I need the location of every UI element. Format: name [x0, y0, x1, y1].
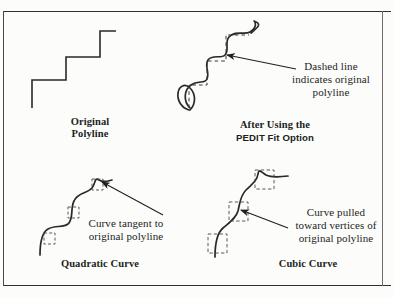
annotation-curve-pulled: Curve pulled toward vertices of original…: [281, 206, 391, 245]
caption-cubic-curve: Cubic Curve: [238, 258, 378, 270]
caption-quadratic-curve: Quadratic Curve: [20, 258, 180, 270]
cubic-vertex-grips: [208, 170, 274, 253]
pedit-original-dashed-shape: [189, 35, 249, 108]
annotation-dashed-line: Dashed line indicates original polyline: [272, 60, 390, 99]
caption-pedit-fit-line2: PEDIT Fit Option: [205, 132, 345, 143]
caption-pedit-fit-line1: After Using the: [205, 119, 345, 131]
grip-box: [44, 233, 55, 244]
pedit-fit-shape: [178, 21, 259, 110]
original-polyline-shape: [32, 31, 116, 108]
annotation-curve-tangent: Curve tangent to original polyline: [56, 217, 196, 243]
figure-artwork: [0, 0, 394, 298]
caption-original-polyline: Original Polyline: [30, 116, 150, 141]
leader-arrow-tangent: [102, 182, 163, 215]
figure-root: Original Polyline Dashed line indicates …: [0, 0, 394, 298]
